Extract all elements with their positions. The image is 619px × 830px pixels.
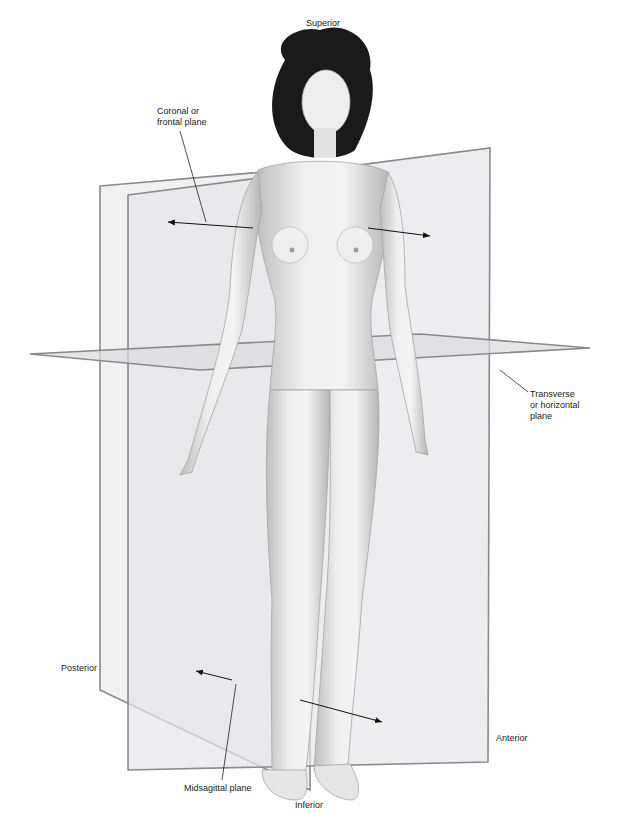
anatomical-planes-diagram: Superior Coronal or frontal plane Transv… xyxy=(0,0,619,830)
label-transverse-plane: Transverse or horizontal plane xyxy=(530,389,580,422)
label-anterior: Anterior xyxy=(496,733,528,744)
label-midsagittal-plane: Midsagittal plane xyxy=(184,783,252,794)
label-superior: Superior xyxy=(306,18,340,29)
planes-illustration xyxy=(0,0,619,830)
label-coronal-plane: Coronal or frontal plane xyxy=(157,106,207,128)
label-inferior: Inferior xyxy=(295,800,323,811)
label-posterior: Posterior xyxy=(61,663,97,674)
